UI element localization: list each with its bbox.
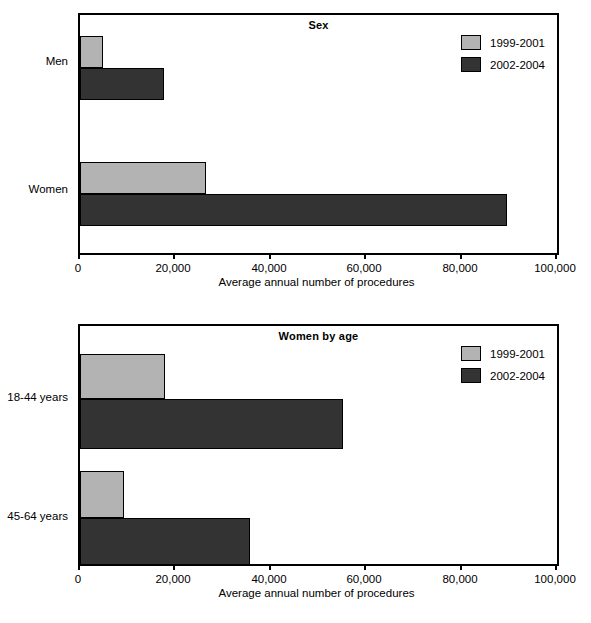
x-axis-title-sex: Average annual number of procedures: [78, 276, 555, 288]
chart-panel-sex: Men Women Sex 1999-2001 2002-2004: [0, 0, 591, 311]
chart-panel-women-by-age: 18-44 years 45-64 years Women by age 199…: [0, 311, 591, 623]
x-tick-40000: [269, 564, 271, 570]
x-tick-label-40000: 40,000: [251, 573, 286, 585]
x-tick-label-0: 0: [75, 573, 81, 585]
x-axis-title-women-by-age: Average annual number of procedures: [78, 587, 555, 599]
x-tick-100000: [555, 253, 557, 259]
x-tick-40000: [269, 253, 271, 259]
bar-women-1999-2001: [80, 162, 206, 194]
bar-18-44-years-1999-2001: [80, 354, 165, 399]
x-tick-100000: [555, 564, 557, 570]
x-tick-80000: [460, 564, 462, 570]
x-tick-0: [78, 253, 80, 259]
bar-women-2002-2004: [80, 194, 507, 226]
x-tick-label-0: 0: [75, 262, 81, 274]
bar-men-2002-2004: [80, 68, 164, 100]
x-axis-sex: 0 20,000 40,000 60,000 80,000 100,000: [78, 253, 557, 255]
x-tick-60000: [364, 564, 366, 570]
bars-sex: [80, 15, 557, 253]
y-axis-label-women: Women: [29, 183, 68, 195]
plot-area-women-by-age: Women by age 1999-2001 2002-2004: [78, 324, 559, 566]
y-axis-labels-women-by-age: 18-44 years 45-64 years: [0, 324, 72, 562]
y-axis-label-men: Men: [46, 55, 68, 67]
x-tick-80000: [460, 253, 462, 259]
x-tick-label-20000: 20,000: [155, 573, 190, 585]
y-axis-label-18-44-years: 18-44 years: [7, 391, 68, 403]
x-tick-60000: [364, 253, 366, 259]
x-tick-label-60000: 60,000: [346, 573, 381, 585]
bar-45-64-years-1999-2001: [80, 471, 124, 518]
x-tick-label-80000: 80,000: [442, 573, 477, 585]
x-tick-label-60000: 60,000: [346, 262, 381, 274]
x-tick-label-40000: 40,000: [251, 262, 286, 274]
y-axis-label-45-64-years: 45-64 years: [7, 510, 68, 522]
x-tick-label-100000: 100,000: [534, 573, 576, 585]
x-tick-20000: [173, 253, 175, 259]
x-tick-label-80000: 80,000: [442, 262, 477, 274]
x-tick-20000: [173, 564, 175, 570]
plot-area-sex: Sex 1999-2001 2002-2004: [78, 13, 559, 255]
x-axis-women-by-age: 0 20,000 40,000 60,000 80,000 100,000: [78, 564, 557, 566]
x-tick-label-100000: 100,000: [534, 262, 576, 274]
y-axis-labels-sex: Men Women: [0, 13, 72, 251]
x-tick-label-20000: 20,000: [155, 262, 190, 274]
bars-women-by-age: [80, 326, 557, 564]
bar-men-1999-2001: [80, 36, 103, 68]
bar-45-64-years-2002-2004: [80, 518, 250, 565]
x-tick-0: [78, 564, 80, 570]
bar-18-44-years-2002-2004: [80, 399, 343, 449]
